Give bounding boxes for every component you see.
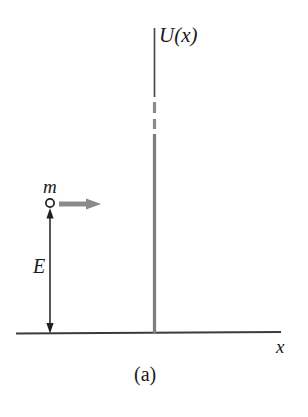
- energy-arrow-head-down: [46, 323, 53, 334]
- energy-label: E: [33, 256, 45, 276]
- particle-mass-circle: [46, 199, 54, 207]
- mass-label: m: [43, 177, 57, 196]
- potential-energy-diagram: [0, 0, 308, 417]
- figure-container: U(x) m E x (a): [0, 0, 308, 417]
- x-axis-line: [16, 332, 281, 334]
- potential-label: U(x): [159, 25, 197, 46]
- x-axis-label: x: [276, 337, 284, 356]
- figure-caption: (a): [134, 364, 156, 384]
- energy-arrow: [46, 208, 53, 334]
- velocity-arrow: [59, 199, 101, 210]
- velocity-arrow-head: [86, 199, 101, 210]
- energy-arrow-head-up: [46, 208, 53, 219]
